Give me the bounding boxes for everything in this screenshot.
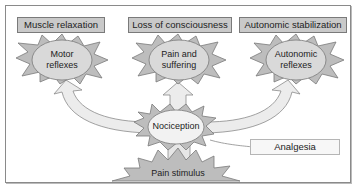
node-pain-stimulus: Pain stimulus bbox=[148, 168, 208, 179]
modulator-analgesia: Analgesia bbox=[250, 139, 340, 155]
node-autonomic-reflexes: Autonomic reflexes bbox=[268, 49, 324, 71]
node-nociception: Nociception bbox=[148, 121, 204, 132]
node-motor-reflexes: Motor reflexes bbox=[38, 49, 86, 71]
arrow-to-motor-reflexes bbox=[54, 80, 150, 133]
node-pain-suffering-line2: suffering bbox=[155, 60, 203, 71]
node-pain-suffering: Pain and suffering bbox=[155, 49, 203, 71]
node-motor-reflexes-line2: reflexes bbox=[38, 60, 86, 71]
node-autonomic-reflexes-line1: Autonomic bbox=[268, 49, 324, 60]
arrow-to-autonomic-reflexes bbox=[205, 80, 300, 133]
outcome-autonomic-stabilization: Autonomic stabilization bbox=[239, 17, 347, 33]
node-pain-suffering-line1: Pain and bbox=[155, 49, 203, 60]
node-autonomic-reflexes-line2: reflexes bbox=[268, 60, 324, 71]
node-motor-reflexes-line1: Motor bbox=[38, 49, 86, 60]
analgesia-connector bbox=[210, 140, 252, 147]
outcome-muscle-relaxation: Muscle relaxation bbox=[17, 17, 105, 33]
outcome-loss-of-consciousness: Loss of consciousness bbox=[128, 17, 232, 33]
